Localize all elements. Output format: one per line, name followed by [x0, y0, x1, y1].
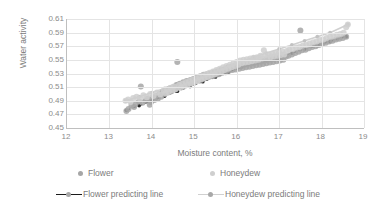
gridline-horizontal — [67, 74, 364, 75]
gridline-vertical — [109, 19, 110, 128]
flower-marker-icon — [78, 171, 83, 176]
scatter-chart: Water activity 0.450.470.490.510.530.550… — [0, 0, 387, 223]
legend-label-flower-line: Flower predicting line — [83, 189, 163, 199]
y-tick-label: 0.53 — [30, 70, 64, 78]
legend-item-flower[interactable]: Flower — [78, 168, 114, 178]
legend-item-honeydew[interactable]: Honeydew — [210, 168, 260, 178]
legend-row-lines: Flower predicting line Honeydew predicti… — [0, 189, 387, 209]
legend-label-honeydew-line: Honeydew predicting line — [225, 189, 320, 199]
x-tick-label: 17 — [266, 132, 290, 141]
y-tick-label: 0.51 — [30, 83, 64, 91]
legend-label-honeydew: Honeydew — [220, 168, 260, 178]
gridline-horizontal — [67, 60, 364, 61]
gridline-vertical — [322, 19, 323, 128]
gridline-horizontal — [67, 19, 364, 20]
gridline-horizontal — [67, 114, 364, 115]
gridline-vertical — [194, 19, 195, 128]
gridline-vertical — [364, 19, 365, 128]
y-tick-label: 0.61 — [30, 15, 64, 23]
honeydew-marker-icon — [210, 171, 215, 176]
y-tick-label: 0.47 — [30, 110, 64, 118]
y-tick-label: 0.57 — [30, 42, 64, 50]
x-tick-label: 19 — [351, 132, 375, 141]
x-tick-label: 13 — [96, 132, 120, 141]
plot-area — [66, 19, 364, 129]
legend-row-markers: Flower Honeydew — [0, 168, 387, 188]
x-tick-label: 12 — [54, 132, 78, 141]
x-axis-title: Moisture content, % — [66, 148, 364, 158]
legend-item-flower-line[interactable]: Flower predicting line — [56, 189, 163, 199]
honeydew-line-icon — [198, 191, 224, 198]
y-tick-label: 0.59 — [30, 29, 64, 37]
gridline-horizontal — [67, 33, 364, 34]
x-tick-label: 14 — [139, 132, 163, 141]
gridline-vertical — [237, 19, 238, 128]
legend-label-flower: Flower — [88, 168, 114, 178]
y-tick-label: 0.55 — [30, 56, 64, 64]
gridline-horizontal — [67, 87, 364, 88]
x-tick-label: 18 — [309, 132, 333, 141]
gridline-vertical — [279, 19, 280, 128]
gridline-horizontal — [67, 46, 364, 47]
legend-item-honeydew-line[interactable]: Honeydew predicting line — [198, 189, 320, 199]
x-tick-label: 16 — [224, 132, 248, 141]
chart-legend: Flower Honeydew Flower predicting line H… — [0, 168, 387, 216]
y-tick-label: 0.45 — [30, 124, 64, 132]
gridline-horizontal — [67, 101, 364, 102]
gridline-vertical — [152, 19, 153, 128]
x-tick-label: 15 — [181, 132, 205, 141]
flower-line-icon — [56, 191, 82, 198]
y-tick-label: 0.49 — [30, 97, 64, 105]
